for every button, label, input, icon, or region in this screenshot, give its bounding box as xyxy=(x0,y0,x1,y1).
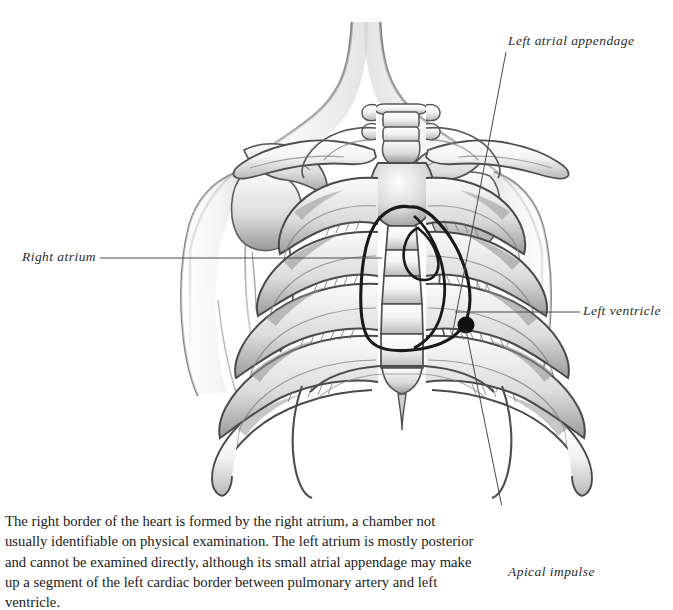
anatomy-figure xyxy=(0,0,673,505)
sternum xyxy=(369,163,434,430)
label-apical-impulse: Apical impulse xyxy=(508,564,595,580)
figure-caption: The right border of the heart is formed … xyxy=(5,511,475,610)
caption-text: The right border of the heart is formed … xyxy=(5,511,475,610)
label-right-atrium: Right atrium xyxy=(22,249,96,265)
thorax-drawing xyxy=(0,0,673,505)
label-left-atrial-appendage: Left atrial appendage xyxy=(508,33,634,49)
label-left-ventricle: Left ventricle xyxy=(583,303,661,319)
